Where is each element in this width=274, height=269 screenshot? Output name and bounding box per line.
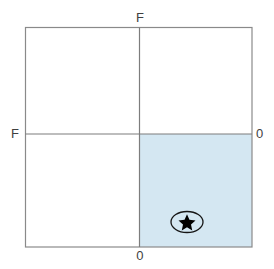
axis-label-left: F <box>11 127 19 140</box>
axis-label-bottom-text: 0 <box>136 248 143 263</box>
axis-label-bottom: 0 <box>0 249 274 262</box>
quadrant-plot-canvas <box>0 0 274 269</box>
shaded-quadrant-bottom-right <box>140 134 253 247</box>
axis-label-top: F <box>0 11 274 24</box>
axis-label-top-text: F <box>136 10 144 25</box>
axis-label-right: 0 <box>256 127 263 140</box>
quadrant-diagram: F F 0 0 <box>0 0 274 269</box>
